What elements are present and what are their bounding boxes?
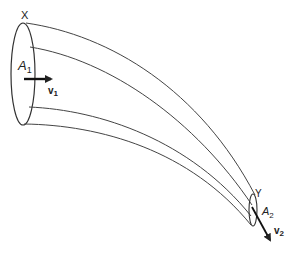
streamline-upper [30, 47, 252, 205]
label-velocity-v2: v2 [274, 225, 285, 238]
tube-bottom-wall [24, 124, 251, 225]
label-point-y: Y [255, 188, 262, 199]
tube-top-wall [26, 23, 255, 195]
label-point-x: X [21, 9, 29, 21]
flow-tube-diagram: X A1 v1 Y A2 v2 [0, 0, 297, 256]
label-area-a1: A1 [17, 58, 32, 75]
label-velocity-v1: v1 [48, 85, 59, 98]
streamline-lower [29, 107, 251, 216]
label-area-a2: A2 [261, 205, 274, 220]
